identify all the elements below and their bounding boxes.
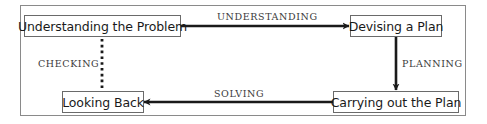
- node-carrying-out-the-plan: Carrying out the Plan: [333, 91, 459, 113]
- edge-label-planning: PLANNING: [402, 59, 463, 69]
- edge-label-solving: SOLVING: [214, 89, 264, 99]
- edge-label-checking: CHECKING: [38, 59, 99, 69]
- node-understanding-the-problem: Understanding the Problem: [24, 15, 181, 37]
- node-looking-back: Looking Back: [62, 91, 144, 113]
- node-devising-a-plan: Devising a Plan: [350, 15, 442, 37]
- edge-label-understanding: UNDERSTANDING: [217, 12, 318, 22]
